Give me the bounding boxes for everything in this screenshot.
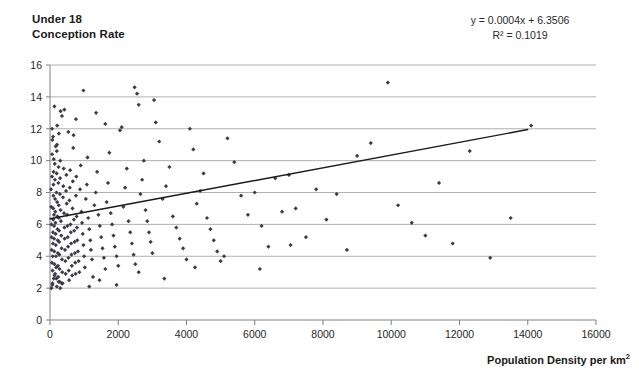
data-point xyxy=(70,206,74,210)
data-point xyxy=(133,85,137,89)
data-point xyxy=(74,117,78,121)
data-point xyxy=(266,245,270,249)
data-point xyxy=(208,227,212,231)
data-point xyxy=(126,219,130,223)
data-point xyxy=(304,235,308,239)
data-point xyxy=(61,195,65,199)
data-point xyxy=(96,213,100,217)
data-point xyxy=(52,104,56,108)
data-point xyxy=(99,235,103,239)
data-point xyxy=(68,186,72,190)
data-point xyxy=(88,238,92,242)
data-point xyxy=(152,98,156,102)
data-point xyxy=(116,264,120,268)
data-point xyxy=(149,240,153,244)
scatter-chart: Under 18 Conception Rate y = 0.0004x + 6… xyxy=(0,0,639,381)
data-point xyxy=(451,241,455,245)
data-point xyxy=(423,233,427,237)
data-point xyxy=(84,197,88,201)
data-point xyxy=(219,259,223,263)
data-point xyxy=(95,170,99,174)
data-point xyxy=(52,276,56,280)
data-point xyxy=(123,186,127,190)
data-point xyxy=(60,114,64,118)
data-point xyxy=(87,227,91,231)
data-point xyxy=(75,225,79,229)
data-point xyxy=(324,217,328,221)
data-point xyxy=(215,249,219,253)
data-point xyxy=(201,171,205,175)
data-point xyxy=(154,120,158,124)
data-point xyxy=(178,237,182,241)
data-point xyxy=(53,178,57,182)
x-tick-label: 6000 xyxy=(243,328,267,340)
data-point xyxy=(164,184,168,188)
data-point xyxy=(51,135,55,139)
y-tick-label: 10 xyxy=(30,154,42,166)
data-point xyxy=(81,243,85,247)
data-point xyxy=(369,141,373,145)
data-point xyxy=(71,179,75,183)
data-point xyxy=(106,181,110,185)
data-point xyxy=(128,230,132,234)
data-point xyxy=(294,206,298,210)
data-point xyxy=(50,268,54,272)
data-point xyxy=(193,265,197,269)
data-point xyxy=(65,202,69,206)
y-axis-ticks: 0246810121416 xyxy=(30,59,50,326)
data-point xyxy=(157,139,161,143)
data-point xyxy=(143,208,147,212)
data-point xyxy=(107,151,111,155)
data-point xyxy=(67,278,71,282)
data-point xyxy=(94,190,98,194)
data-point xyxy=(97,278,101,282)
y-tick-label: 0 xyxy=(36,314,42,326)
data-point xyxy=(137,103,141,107)
data-point xyxy=(94,111,98,115)
data-point xyxy=(67,198,71,202)
data-point xyxy=(188,127,192,131)
data-point xyxy=(64,173,68,177)
data-point xyxy=(81,232,85,236)
x-axis-ticks: 0200040006000800010000120001400016000 xyxy=(47,320,611,340)
data-point xyxy=(58,159,62,163)
data-point xyxy=(50,127,54,131)
data-point xyxy=(85,182,89,186)
data-point xyxy=(62,108,66,112)
data-point xyxy=(103,122,107,126)
data-point xyxy=(253,190,257,194)
x-tick-label: 4000 xyxy=(175,328,199,340)
data-point xyxy=(71,133,75,137)
y-tick-label: 2 xyxy=(36,282,42,294)
data-point xyxy=(61,184,65,188)
data-point xyxy=(72,217,76,221)
x-tick-label: 12000 xyxy=(445,328,474,340)
y-tick-label: 4 xyxy=(36,250,42,262)
data-point xyxy=(355,154,359,158)
data-point xyxy=(195,202,199,206)
data-point xyxy=(147,230,151,234)
data-point xyxy=(205,216,209,220)
data-point xyxy=(181,246,185,250)
data-point xyxy=(280,210,284,214)
data-point xyxy=(145,219,149,223)
data-point xyxy=(130,241,134,245)
data-point xyxy=(167,165,171,169)
y-tick-label: 8 xyxy=(36,186,42,198)
data-point xyxy=(184,257,188,261)
data-point xyxy=(225,136,229,140)
data-point xyxy=(162,276,166,280)
data-point xyxy=(345,248,349,252)
data-point xyxy=(222,254,226,258)
data-point xyxy=(109,211,113,215)
data-point xyxy=(288,243,292,247)
data-point xyxy=(55,149,59,153)
data-point xyxy=(103,267,107,271)
data-point xyxy=(58,176,62,180)
data-point xyxy=(509,216,513,220)
data-point xyxy=(83,265,87,269)
data-point xyxy=(75,214,79,218)
data-point xyxy=(79,163,83,167)
data-point xyxy=(50,174,54,178)
data-point xyxy=(171,214,175,218)
